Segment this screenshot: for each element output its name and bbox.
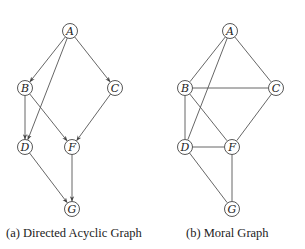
node-label: B [180,82,189,95]
edge-A-D [188,38,227,140]
node-C: C [108,81,123,96]
edge-C-F [77,94,111,140]
moral-graph: ABCDFG [178,24,284,217]
node-B: B [18,81,33,96]
caption-moral: (b) Moral Graph [186,226,269,241]
node-C: C [269,81,284,96]
edge-B-F [190,94,227,141]
edge-A-C [235,37,271,82]
edge-C-F [237,94,272,141]
directed-acyclic-graph: ABCDFG [18,24,123,217]
node-label: A [65,25,74,38]
edge-A-B [190,37,225,82]
node-D: D [178,140,193,155]
node-label: F [67,141,76,154]
node-label: D [180,141,190,154]
node-A: A [223,24,238,39]
node-A: A [63,24,78,39]
node-label: F [227,141,236,154]
edge-A-C [75,37,110,82]
node-label: G [228,203,237,216]
node-F: F [225,140,240,155]
edges [25,37,111,203]
edge-A-B [30,37,65,82]
node-G: G [65,202,80,217]
edges [185,37,272,203]
node-B: B [178,81,193,96]
caption-dag: (a) Directed Acyclic Graph [6,226,142,241]
edge-B-F [30,94,67,141]
graph-canvas: ABCDFG ABCDFG [0,0,305,249]
node-label: G [68,203,77,216]
edge-D-G [190,153,228,203]
node-label: C [272,82,281,95]
node-G: G [225,202,240,217]
edge-D-G [30,153,68,203]
node-label: D [20,141,30,154]
node-label: B [20,82,29,95]
edge-A-D [28,38,67,140]
node-label: C [111,82,120,95]
node-label: A [225,25,234,38]
node-D: D [18,140,33,155]
node-F: F [65,140,80,155]
